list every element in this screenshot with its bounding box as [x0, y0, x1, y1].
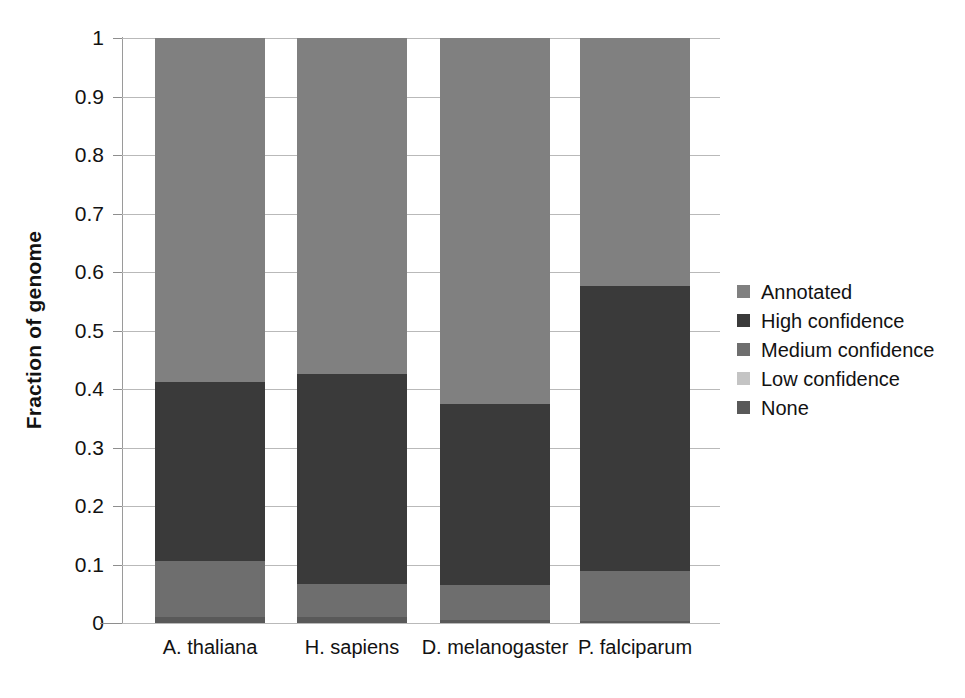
legend-swatch-icon [737, 401, 750, 414]
x-axis-tick-label: H. sapiens [305, 636, 400, 659]
bar-segment-medium-confidence[interactable] [297, 584, 407, 617]
bar-d-melanogaster[interactable] [440, 38, 550, 623]
bar-segment-none[interactable] [580, 621, 690, 623]
bar-segment-none[interactable] [440, 620, 550, 623]
y-axis-tickmark [113, 623, 122, 624]
bar-segment-none[interactable] [297, 617, 407, 623]
y-axis-tick-label: 0.7 [42, 202, 104, 226]
y-axis-tickmark [113, 331, 122, 332]
bar-segment-none[interactable] [155, 617, 265, 623]
bar-segment-medium-confidence[interactable] [440, 585, 550, 620]
bar-segment-high-confidence[interactable] [580, 286, 690, 571]
legend-swatch-icon [737, 343, 750, 356]
bar-segment-annotated[interactable] [297, 38, 407, 374]
legend-item[interactable]: High confidence [737, 306, 957, 335]
y-axis-tick-label: 0 [42, 611, 104, 635]
y-axis-tickmark [113, 565, 122, 566]
y-axis-tick-label: 0.4 [42, 377, 104, 401]
legend-item-label: Low confidence [761, 369, 900, 389]
legend-item-label: Annotated [761, 282, 852, 302]
bar-segment-high-confidence[interactable] [297, 374, 407, 583]
y-axis-tick-label: 0.2 [42, 494, 104, 518]
legend: AnnotatedHigh confidenceMedium confidenc… [737, 277, 957, 422]
bar-segment-annotated[interactable] [155, 38, 265, 382]
y-axis-tick-label: 0.8 [42, 143, 104, 167]
y-axis-tick-label: 0.3 [42, 436, 104, 460]
legend-swatch-icon [737, 285, 750, 298]
stacked-bar-chart-figure: Fraction of genome 00.10.20.30.40.50.60.… [0, 0, 965, 698]
x-axis-tick-label: P. falciparum [578, 636, 692, 659]
y-axis-tick-label: 0.5 [42, 319, 104, 343]
bar-p-falciparum[interactable] [580, 38, 690, 623]
y-axis-tick-label: 1 [42, 26, 104, 50]
legend-item[interactable]: None [737, 393, 957, 422]
bar-segment-medium-confidence[interactable] [155, 561, 265, 617]
legend-item-label: Medium confidence [761, 340, 934, 360]
bar-segment-medium-confidence[interactable] [580, 571, 690, 621]
y-axis-tickmark [113, 155, 122, 156]
bar-h-sapiens[interactable] [297, 38, 407, 623]
y-axis-tickmark [113, 389, 122, 390]
x-axis-tick-label: A. thaliana [163, 636, 258, 659]
gridline [122, 623, 720, 624]
y-axis-tick-label: 0.6 [42, 260, 104, 284]
y-axis-tickmark [113, 272, 122, 273]
bar-segment-annotated[interactable] [440, 38, 550, 404]
y-axis-tickmark [113, 38, 122, 39]
legend-item[interactable]: Medium confidence [737, 335, 957, 364]
y-axis-tickmark [113, 448, 122, 449]
y-axis-tick-label: 0.1 [42, 553, 104, 577]
plot-area [122, 38, 720, 623]
y-axis-tick-labels: 00.10.20.30.40.50.60.70.80.91 [42, 0, 104, 698]
legend-item-label: High confidence [761, 311, 904, 331]
y-axis-tickmark [113, 506, 122, 507]
x-axis-tick-label: D. melanogaster [422, 636, 569, 659]
y-axis-tick-label: 0.9 [42, 85, 104, 109]
legend-swatch-icon [737, 314, 750, 327]
y-axis-tickmark [113, 214, 122, 215]
bar-segment-high-confidence[interactable] [155, 382, 265, 561]
legend-swatch-icon [737, 372, 750, 385]
bar-segment-high-confidence[interactable] [440, 404, 550, 585]
legend-item-label: None [761, 398, 809, 418]
legend-item[interactable]: Low confidence [737, 364, 957, 393]
bar-segment-annotated[interactable] [580, 38, 690, 286]
bar-a-thaliana[interactable] [155, 38, 265, 623]
y-axis-tickmark [113, 97, 122, 98]
legend-item[interactable]: Annotated [737, 277, 957, 306]
